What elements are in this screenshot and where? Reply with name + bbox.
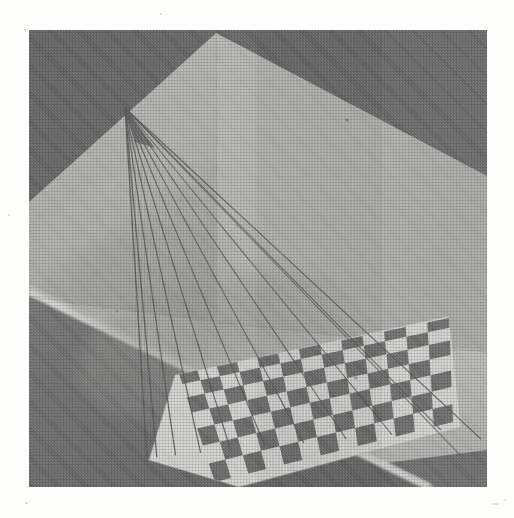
paper-speck xyxy=(503,499,507,501)
paper-speck xyxy=(8,214,10,216)
print-blemish xyxy=(354,376,357,379)
photograph xyxy=(29,30,487,487)
page-root: Black and white halftone photograph of a… xyxy=(0,0,514,518)
perspective-model-scene xyxy=(29,30,487,487)
paper-speck xyxy=(25,502,28,504)
print-blemish xyxy=(236,225,239,228)
print-blemish xyxy=(115,309,118,312)
print-blemish xyxy=(346,119,349,122)
paper-speck xyxy=(24,29,26,31)
paper-speck xyxy=(160,13,162,15)
paper-speck xyxy=(492,503,499,505)
print-blemish xyxy=(179,199,182,202)
print-blemish xyxy=(243,374,246,377)
